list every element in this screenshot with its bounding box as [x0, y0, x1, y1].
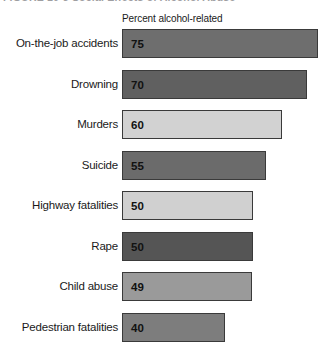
bar-row: Drowning70	[0, 70, 324, 99]
bar-row: Suicide55	[0, 151, 324, 180]
bar-row: Pedestrian fatalities40	[0, 313, 324, 342]
bar-value-label: 60	[131, 111, 144, 140]
bar-row: Murders60	[0, 110, 324, 139]
bar-category-label: Rape	[91, 232, 118, 261]
bar: 49	[122, 272, 252, 301]
horizontal-bar-chart: On-the-job accidents75Drowning70Murders6…	[0, 29, 324, 353]
bar-value-label: 49	[131, 273, 144, 302]
bar: 55	[122, 151, 266, 180]
bar-category-label: Murders	[77, 110, 118, 139]
bar: 60	[122, 110, 282, 139]
bar-value-label: 50	[131, 233, 144, 262]
bar-value-label: 75	[131, 30, 144, 59]
bar-category-label: Highway fatalities	[32, 191, 118, 220]
bar: 40	[122, 313, 225, 342]
bar: 75	[122, 29, 318, 58]
bar-row: Highway fatalities50	[0, 191, 324, 220]
bar: 70	[122, 70, 307, 99]
figure-title: FIGURE 10-3 Social Effects of Alcohol Ab…	[3, 0, 321, 3]
bar-row: On-the-job accidents75	[0, 29, 324, 58]
bar-category-label: Drowning	[71, 70, 118, 99]
bar-value-label: 70	[131, 71, 144, 100]
bar-category-label: Pedestrian fatalities	[22, 313, 118, 342]
bar: 50	[122, 232, 253, 261]
bar-row: Rape50	[0, 232, 324, 261]
bar-row: Child abuse49	[0, 272, 324, 301]
bar-category-label: Suicide	[82, 151, 118, 180]
bar-value-label: 40	[131, 314, 144, 343]
column-header-percent-alcohol-related: Percent alcohol-related	[122, 13, 223, 24]
bar-value-label: 50	[131, 192, 144, 221]
bar-category-label: On-the-job accidents	[16, 29, 118, 58]
bar-category-label: Child abuse	[59, 272, 118, 301]
bar-value-label: 55	[131, 152, 144, 181]
bar: 50	[122, 191, 253, 220]
